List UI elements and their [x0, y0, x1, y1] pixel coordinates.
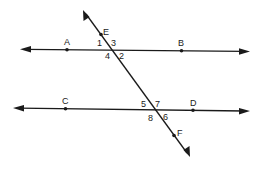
angle-3-label: 3	[111, 38, 116, 48]
point-d	[191, 109, 195, 113]
label-a: A	[64, 37, 70, 47]
angle-4-label: 4	[105, 51, 110, 61]
point-c	[64, 107, 68, 111]
arrow-right-icon	[239, 108, 250, 115]
label-f: F	[177, 128, 183, 138]
parallel-lines-diagram: A B C D E F 1 3 4 2 5 7 8 6	[0, 0, 265, 172]
line-ab	[20, 46, 250, 55]
label-e: E	[103, 27, 109, 37]
label-b: B	[178, 38, 184, 48]
point-a	[65, 48, 69, 52]
angle-7-label: 7	[155, 99, 160, 109]
arrow-up-icon	[83, 10, 90, 21]
angle-2-label: 2	[119, 51, 124, 61]
angle-1-label: 1	[97, 38, 102, 48]
label-d: D	[190, 98, 197, 108]
angle-5-label: 5	[141, 99, 146, 109]
point-f	[172, 134, 176, 138]
angle-8-label: 8	[148, 113, 153, 123]
arrow-left-icon	[13, 105, 24, 112]
arrow-right-icon	[239, 48, 250, 55]
line-cd	[13, 105, 250, 115]
arrow-down-icon	[184, 146, 191, 157]
angle-6-label: 6	[163, 112, 168, 122]
label-c: C	[62, 96, 69, 106]
point-b	[180, 49, 184, 53]
arrow-left-icon	[20, 46, 31, 53]
